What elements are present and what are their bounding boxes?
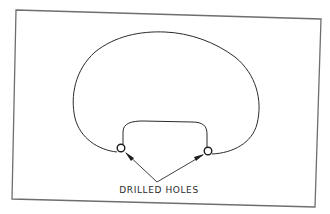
left-drilled-hole (117, 144, 125, 152)
diagram-canvas: DRILLED HOLES (0, 0, 330, 214)
drilled-holes-label: DRILLED HOLES (119, 185, 198, 195)
right-drilled-hole (204, 147, 212, 155)
drawing-frame (12, 10, 321, 207)
